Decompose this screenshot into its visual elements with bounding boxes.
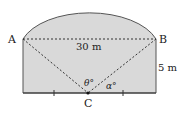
label-b: B (159, 33, 167, 46)
label-alpha: α° (106, 81, 117, 91)
point-c-dot (86, 91, 89, 94)
label-theta: θ° (84, 78, 94, 88)
label-a: A (7, 33, 17, 46)
label-height: 5 m (158, 62, 178, 73)
label-ab-length: 30 m (76, 41, 102, 52)
geometry-diagram: A B C 30 m 5 m θ° α° (0, 0, 186, 114)
label-c: C (84, 97, 92, 110)
